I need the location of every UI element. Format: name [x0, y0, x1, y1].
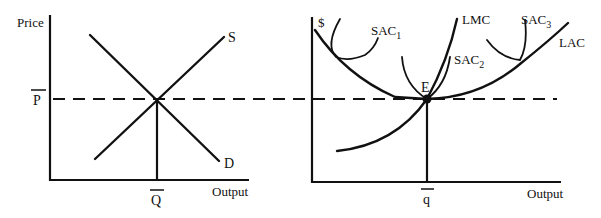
supply-label: S [228, 30, 236, 45]
dollar-axis-label: $ [318, 15, 325, 30]
q-small-label: q [423, 192, 430, 207]
left-output-label: Output [212, 184, 249, 199]
equilibrium-point [423, 95, 432, 104]
firm-panel: $ Output q E LMC LAC SAC1 SAC2 SAC3 [311, 12, 585, 207]
lmc-label: LMC [462, 12, 490, 27]
p-bar-label: P [33, 93, 41, 108]
sac3-curve [487, 20, 526, 60]
sac1-label: SAC1 [371, 23, 401, 41]
right-output-label: Output [527, 186, 564, 201]
market-panel: Price Output P Q S D [17, 15, 249, 208]
economics-diagram: Price Output P Q S D $ Output q E LMC LA… [0, 0, 601, 218]
demand-label: D [224, 156, 234, 171]
q-bar-label: Q [151, 193, 161, 208]
price-axis-label: Price [17, 15, 44, 30]
lac-curve [315, 23, 568, 99]
e-label: E [421, 80, 430, 95]
lac-label: LAC [559, 35, 585, 50]
sac2-label: SAC2 [454, 52, 484, 70]
